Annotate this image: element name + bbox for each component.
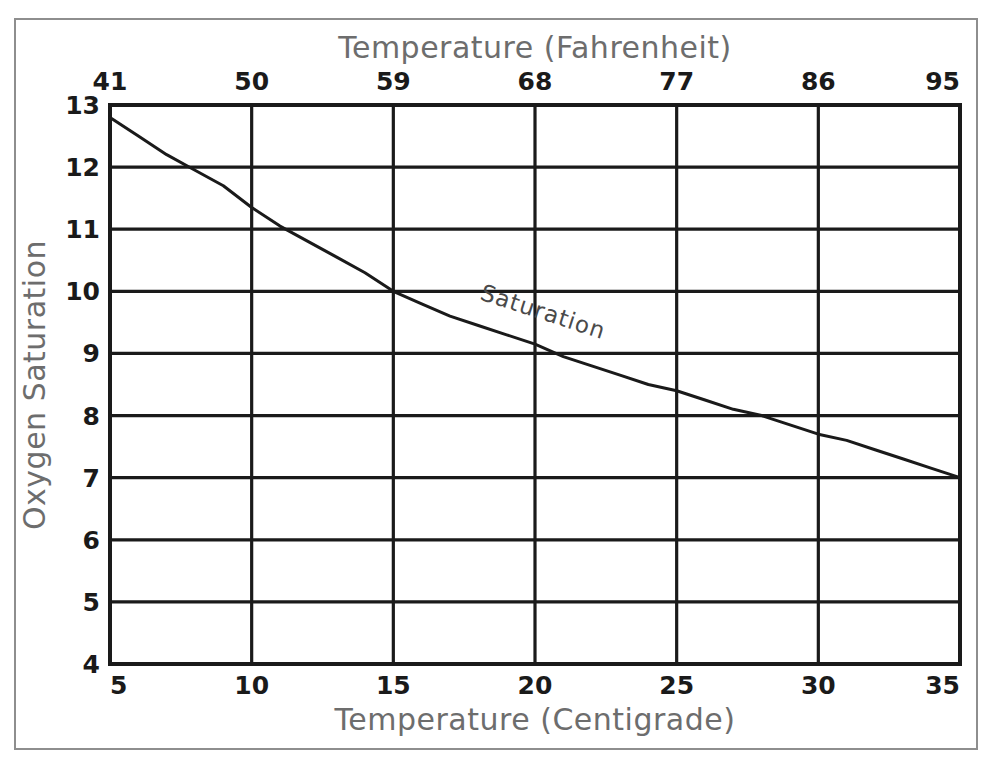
top-axis-title: Temperature (Fahrenheit) [337,30,732,65]
y-tick-label: 11 [65,215,100,244]
y-tick-label: 6 [83,526,100,555]
grid-lines [110,105,960,664]
series-annotation: Saturation [477,279,609,344]
y-tick-label: 9 [83,339,100,368]
bottom-tick-label: 10 [234,671,269,700]
y-tick-label: 7 [83,464,100,493]
y-tick-label: 10 [65,277,100,306]
y-tick-label: 4 [83,650,100,679]
top-tick-label: 68 [518,67,553,96]
bottom-tick-label: 5 [110,671,127,700]
y-axis-title: Oxygen Saturation [17,240,52,530]
top-tick-label: 50 [234,67,269,96]
y-tick-label: 5 [83,588,100,617]
top-tick-label: 59 [376,67,411,96]
y-tick-label: 8 [83,402,100,431]
chart-figure: Temperature (Fahrenheit) Temperature (Ce… [0,0,1006,770]
bottom-axis-title: Temperature (Centigrade) [334,702,736,737]
bottom-axis-tick-labels: 5101520253035 [110,671,960,700]
bottom-tick-label: 15 [376,671,411,700]
y-tick-label: 13 [65,91,100,120]
series-annotation-label: Saturation [477,279,609,344]
bottom-tick-label: 30 [801,671,836,700]
y-axis-tick-labels: 45678910111213 [65,91,100,679]
top-tick-label: 77 [659,67,694,96]
bottom-tick-label: 35 [925,671,960,700]
bottom-tick-label: 20 [518,671,553,700]
top-tick-label: 95 [925,67,960,96]
top-axis-tick-labels: 41505968778695 [93,67,960,96]
bottom-tick-label: 25 [659,671,694,700]
oxygen-saturation-chart: Temperature (Fahrenheit) Temperature (Ce… [0,0,1006,770]
top-tick-label: 86 [801,67,836,96]
y-tick-label: 12 [65,153,100,182]
